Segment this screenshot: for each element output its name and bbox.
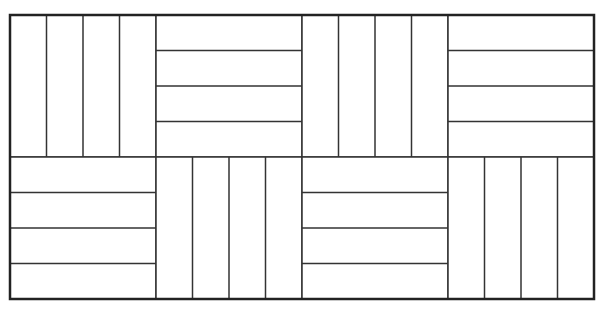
basketweave-diagram — [0, 0, 600, 310]
